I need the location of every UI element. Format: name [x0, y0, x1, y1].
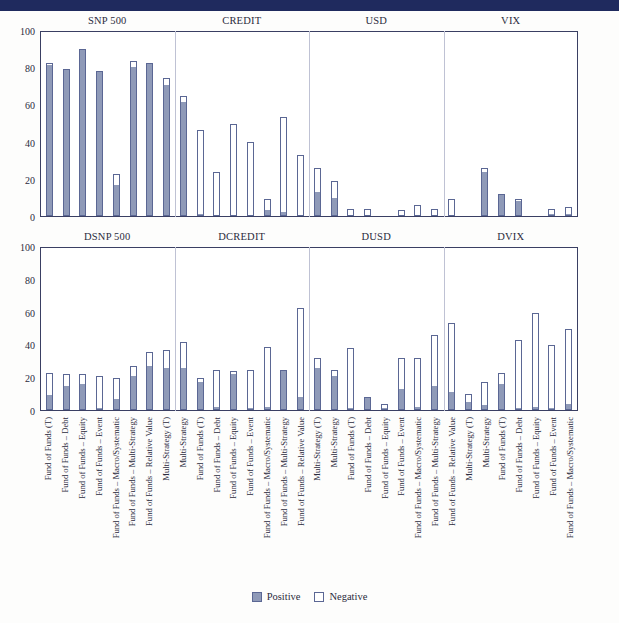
bar-segment-positive [331, 376, 338, 410]
legend-item-negative: Negative [314, 591, 367, 602]
bar-segment-positive [481, 172, 488, 216]
x-axis-label: Fund of Funds – Macro/Systematic [111, 417, 120, 538]
bar-slot [410, 32, 427, 216]
bar-segment-positive [347, 408, 354, 410]
bar-slot [376, 32, 393, 216]
bar-slot [259, 32, 276, 216]
x-label-slot: Fund of Funds – Event [393, 417, 410, 582]
x-label-slot: Fund of Funds – Equity [528, 417, 545, 582]
bar-slot [225, 32, 242, 216]
bar-slot [477, 32, 494, 216]
bar-segment-positive [565, 404, 572, 410]
bar-slot [292, 32, 309, 216]
stacked-bar [331, 370, 338, 410]
bar-segment-negative [79, 374, 86, 384]
bar-segment-negative [347, 209, 354, 216]
bar-slot [158, 32, 175, 216]
x-axis-label: Multi-Strategy [481, 417, 490, 468]
panel1-y-axis: 020406080100 [0, 31, 40, 217]
stacked-bar [197, 130, 204, 216]
bar-slot [276, 248, 293, 410]
y-tick-label-60: 60 [25, 100, 35, 111]
x-axis-label: Fund of Funds – Multi-Strategy [279, 417, 288, 526]
bar-slot [75, 248, 92, 410]
x-label-slot: Fund of Funds – Multi-Strategy [275, 417, 292, 582]
stacked-bar [163, 78, 170, 216]
stacked-bar [314, 168, 321, 216]
group-title-usd: USD [309, 13, 444, 30]
stacked-bar [347, 348, 354, 410]
bar-segment-positive [146, 366, 153, 410]
bar-slot [41, 32, 58, 216]
group-title-credit: CREDIT [175, 13, 310, 30]
x-label-slot: Fund of Funds – Relative Value [141, 417, 158, 582]
bar-slot [510, 248, 527, 410]
bar-segment-positive [63, 386, 70, 410]
bar-segment-negative [247, 142, 254, 216]
x-axis-label: Fund of Funds – Equity [78, 417, 87, 499]
x-axis-label: Fund of Funds – Multi-Strategy [128, 417, 137, 526]
panel1-group-titles: SNP 500 CREDIT USD VIX [40, 13, 578, 30]
bar-segment-positive [481, 405, 488, 410]
stacked-bar [398, 358, 405, 410]
x-label-slot: Fund of Funds – Macro/Systematic [561, 417, 578, 582]
bar-segment-positive [448, 392, 455, 410]
bar-segment-negative [163, 350, 170, 368]
stacked-bar [481, 382, 488, 410]
stacked-bar [280, 117, 287, 216]
bar-segment-negative [213, 172, 220, 216]
legend-label-negative: Negative [329, 591, 367, 602]
x-axis-label: Fund of Funds – Equity [380, 417, 389, 499]
bar-segment-positive [297, 397, 304, 410]
bar-segment-positive [79, 50, 86, 216]
bar-segment-negative [431, 209, 438, 216]
x-label-slot: Fund of Funds – Event [90, 417, 107, 582]
bar-segment-positive [96, 71, 103, 216]
bar-segment-positive [565, 214, 572, 216]
bar-slot [41, 248, 58, 410]
bar-segment-negative [331, 181, 338, 198]
chart-page: SNP 500 CREDIT USD VIX 020406080100 DSNP… [0, 0, 619, 623]
bar-segment-positive [197, 382, 204, 410]
bar-segment-positive [498, 384, 505, 410]
bar-segment-positive [532, 407, 539, 410]
stacked-bar [46, 373, 53, 410]
bar-segment-negative [398, 358, 405, 389]
stacked-bar [314, 358, 321, 410]
panel1-plot-area [40, 31, 578, 217]
x-label-slot: Multi-Strategy (T) [460, 417, 477, 582]
panel2-y-axis: 020406080100 [0, 247, 40, 411]
bar-segment-positive [515, 408, 522, 410]
x-label-slot: Fund of Funds – Macro/Systematic [259, 417, 276, 582]
bar-slot [125, 32, 142, 216]
bar-slot [209, 32, 226, 216]
bar-slot [493, 248, 510, 410]
bar-segment-positive [146, 63, 153, 216]
x-axis-label: Fund of Funds – Multi-Strategy [431, 417, 440, 526]
bar-slot [343, 32, 360, 216]
bar-segment-positive [381, 408, 388, 410]
chart-legend: Positive Negative [0, 591, 619, 602]
stacked-bar [113, 378, 120, 410]
bar-segment-negative [364, 209, 371, 216]
bar-segment-negative [565, 329, 572, 404]
bar-slot [58, 248, 75, 410]
bar-segment-positive [431, 386, 438, 410]
bar-segment-negative [481, 382, 488, 405]
bar-slot [510, 32, 527, 216]
stacked-bar [331, 181, 338, 216]
bar-segment-positive [180, 102, 187, 216]
stacked-bar [398, 210, 405, 216]
bar-segment-negative [113, 174, 120, 185]
x-axis-category-labels: Fund of Funds (T)Fund of Funds – DebtFun… [40, 417, 578, 582]
legend-label-positive: Positive [267, 591, 301, 602]
bar-segment-negative [448, 199, 455, 216]
stacked-bar [180, 96, 187, 216]
x-axis-label: Fund of Funds – Relative Value [447, 417, 456, 526]
bar-segment-negative [213, 370, 220, 407]
bar-segment-positive [465, 402, 472, 410]
bar-slot [376, 248, 393, 410]
x-axis-label: Fund of Funds – Event [94, 417, 103, 496]
stacked-bar [213, 172, 220, 216]
bar-segment-positive [130, 376, 137, 410]
